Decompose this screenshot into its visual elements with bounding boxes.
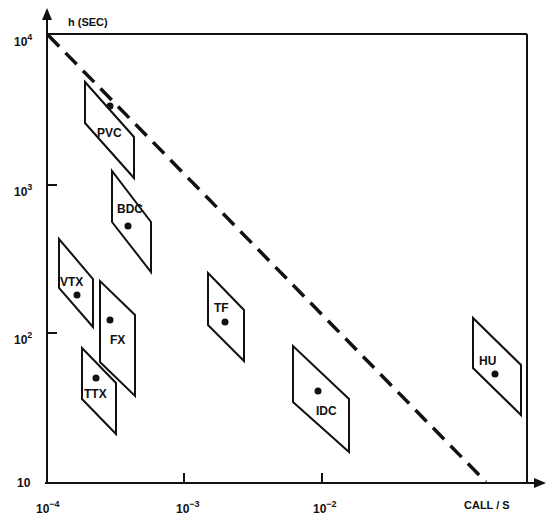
y-label-10e4: 104 <box>14 32 32 49</box>
y-label-10e3: 103 <box>14 182 32 199</box>
chart-canvas: h (SEC) CALL / S 104 103 102 10 10−4 10−… <box>0 0 546 521</box>
point-hu <box>492 371 499 378</box>
region-bdc <box>112 171 151 272</box>
x-axis-title: CALL / S <box>464 499 510 511</box>
label-pvc: PVC <box>97 126 122 140</box>
regions <box>59 82 521 452</box>
label-ttx: TTX <box>84 387 107 401</box>
label-bdc: BDC <box>117 202 143 216</box>
y-tick-labels: 104 103 102 10 <box>14 32 32 490</box>
x-label-10e-2: 10−2 <box>313 499 337 516</box>
label-vtx: VTX <box>60 275 83 289</box>
y-axis-title: h (SEC) <box>68 16 108 28</box>
point-pvc <box>107 103 114 110</box>
point-bdc <box>125 223 132 230</box>
x-tick-labels: 10−4 10−3 10−2 <box>36 499 337 516</box>
y-label-10e2: 102 <box>14 330 32 347</box>
y-axis-arrow-icon <box>42 8 52 20</box>
label-hu: HU <box>479 354 496 368</box>
region-tf <box>208 273 244 361</box>
region-idc <box>293 346 349 452</box>
x-label-10e-4: 10−4 <box>36 499 60 516</box>
label-fx: FX <box>110 333 125 347</box>
data-points <box>74 103 499 395</box>
x-axis-arrow-icon <box>534 478 546 488</box>
y-label-10: 10 <box>17 476 31 490</box>
label-tf: TF <box>214 301 229 315</box>
point-ttx <box>93 375 100 382</box>
point-vtx <box>74 292 81 299</box>
x-label-10e-3: 10−3 <box>176 499 200 516</box>
dashed-boundary-line <box>48 35 486 482</box>
axes <box>45 16 535 483</box>
point-fx <box>107 317 114 324</box>
label-idc: IDC <box>316 404 337 418</box>
point-idc <box>315 388 322 395</box>
point-tf <box>222 319 229 326</box>
